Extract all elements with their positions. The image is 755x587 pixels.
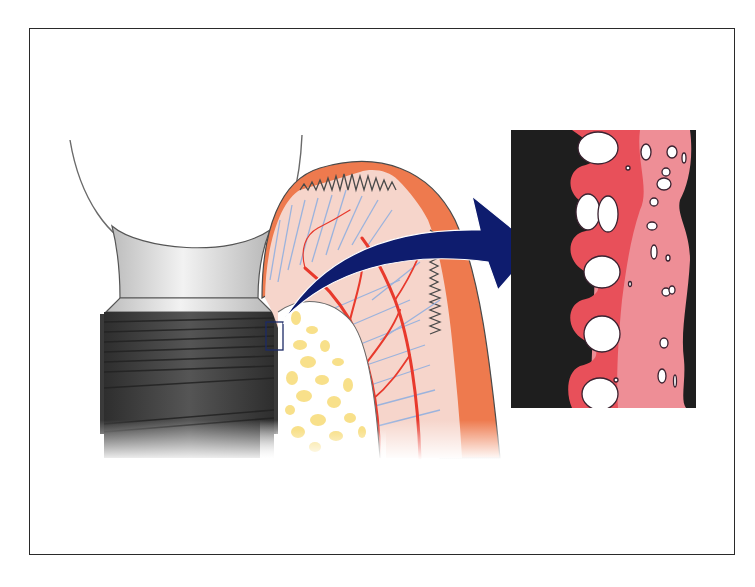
implant-body [100,312,280,462]
magnified-interface [511,130,696,410]
implant-diagram [0,0,755,587]
